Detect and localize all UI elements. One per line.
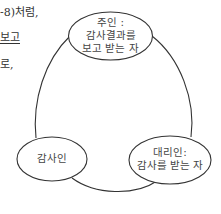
auditor-node: 감사인 [17,152,87,165]
agent-label-line-1: 대리인: [129,146,211,159]
agent-node: 대리인: 감사를 받는 자 [129,146,211,172]
auditor-label: 감사인 [17,152,87,165]
arc-principal-auditor [35,36,70,138]
principal-label-line-2: 감사결과를 [70,29,151,42]
principal-label-line-3: 보고 받는 자 [70,42,151,55]
principal-label-line-1: 주인 : [70,16,151,29]
principal-node: 주인 : 감사결과를 보고 받는 자 [70,16,151,55]
arc-auditor-agent [72,178,157,192]
arc-principal-agent [152,36,192,137]
agent-label-line-2: 감사를 받는 자 [129,159,211,172]
